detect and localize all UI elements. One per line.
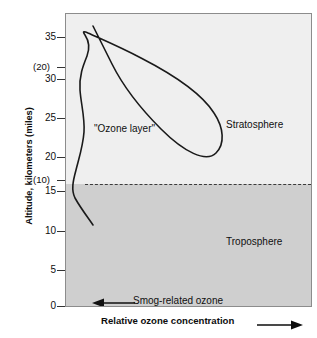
y-tick-mark-20-miles [57, 67, 65, 68]
y-tick-label-20: 20 [22, 152, 56, 162]
y-tick-label-5: 5 [22, 265, 56, 275]
smog-annotation-arrow-icon [90, 297, 136, 307]
y-tick-label-0: 0 [22, 301, 56, 311]
y-tick-label-10-miles: (10) [16, 175, 50, 185]
y-tick-label-25: 25 [22, 113, 56, 123]
y-tick-label-10: 10 [22, 226, 56, 236]
y-tick-label-30: 30 [22, 74, 56, 84]
ozone-altitude-profile-chart: Altitude, kilometers (miles) 35 (20) 30 … [0, 0, 317, 338]
plot-area: "Ozone layer" Stratosphere Troposphere S… [65, 13, 312, 307]
x-axis-title: Relative ozone concentration [101, 315, 234, 326]
y-tick-mark-10 [57, 231, 65, 232]
y-tick-label-15: 15 [22, 186, 56, 196]
annotation-smog-related-ozone: Smog-related ozone [133, 295, 223, 306]
y-tick-label-35: 35 [22, 32, 56, 42]
y-tick-mark-0 [57, 306, 65, 307]
y-tick-mark-30 [57, 79, 65, 80]
y-axis-title: Altitude, kilometers (miles) [24, 56, 34, 276]
annotation-ozone-layer: "Ozone layer" [94, 123, 155, 134]
ozone-concentration-curve [66, 14, 312, 307]
y-tick-mark-35 [57, 37, 65, 38]
y-tick-mark-20 [57, 157, 65, 158]
y-tick-mark-25 [57, 118, 65, 119]
y-tick-mark-10-miles [57, 180, 65, 181]
x-axis-direction-arrow-icon [257, 320, 305, 330]
annotation-troposphere: Troposphere [226, 236, 282, 247]
y-tick-label-20-miles: (20) [16, 62, 50, 72]
y-tick-mark-15 [57, 191, 65, 192]
y-tick-mark-5 [57, 270, 65, 271]
annotation-stratosphere: Stratosphere [226, 119, 283, 130]
